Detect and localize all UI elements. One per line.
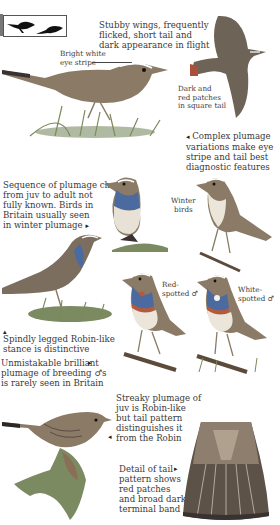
- winter-bird-perched-illustration: [196, 175, 276, 275]
- bluethroat-side-illustration: [0, 48, 175, 138]
- caption-complex: ◂ Complex plumage variations make eye st…: [186, 131, 273, 172]
- caption-winter-birds: Winter birds: [171, 197, 196, 214]
- red-spotted-male-illustration: [120, 270, 195, 375]
- caption-stance: Spindly legged Robin-like stance is dist…: [3, 334, 115, 354]
- white-spotted-male-illustration: [195, 272, 275, 377]
- tail-pattern-illustration: [183, 420, 269, 520]
- size-silhouettes-box: [3, 15, 67, 37]
- juvenile-illustration: [0, 400, 115, 525]
- arrow-right-icon: ▸: [174, 465, 178, 473]
- arrow-right-icon: ▸: [88, 359, 92, 367]
- bluethroat-flight-illustration: [188, 14, 273, 119]
- bird-silhouettes-icon: [4, 16, 66, 36]
- arrow-left-icon: ◂: [186, 133, 190, 141]
- breeding-male-singing-illustration: [0, 228, 118, 328]
- caption-complex-text: Complex plumage variations make eye stri…: [186, 131, 273, 172]
